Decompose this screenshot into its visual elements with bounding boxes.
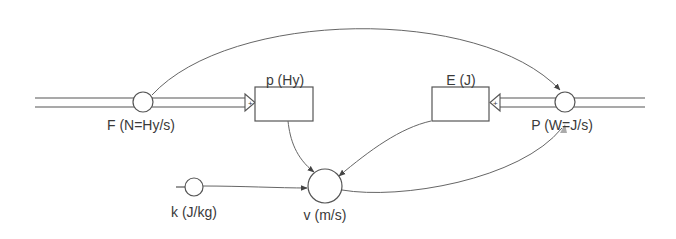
flow-F-label: F (N=Hy/s)	[107, 117, 175, 133]
flow-P-label: P (W=J/s)	[531, 117, 593, 133]
connector-v-to-P	[342, 128, 562, 192]
connector-k-to-v	[203, 186, 307, 188]
flow-valve-P[interactable]	[555, 92, 575, 112]
stock-p-label: p (Hy)	[266, 72, 304, 88]
plus-sign-icon: +	[493, 99, 498, 108]
converter-v[interactable]	[308, 169, 342, 203]
converter-v-label: v (m/s)	[304, 207, 347, 223]
converter-k-label: k (J/kg)	[171, 204, 217, 220]
converter-k[interactable]	[185, 178, 203, 196]
connector-E-to-v	[339, 121, 431, 176]
connector-F-to-P	[152, 29, 560, 95]
stock-flow-diagram: + + p (Hy) E (J) F (N=Hy/s) P (W=J/s) k …	[0, 0, 676, 239]
stock-E[interactable]	[432, 87, 489, 121]
stock-p[interactable]	[255, 87, 313, 121]
connector-p-to-v	[288, 121, 314, 172]
flow-valve-F[interactable]	[133, 92, 153, 112]
stock-E-label: E (J)	[446, 72, 476, 88]
plus-sign-icon: +	[248, 99, 253, 108]
